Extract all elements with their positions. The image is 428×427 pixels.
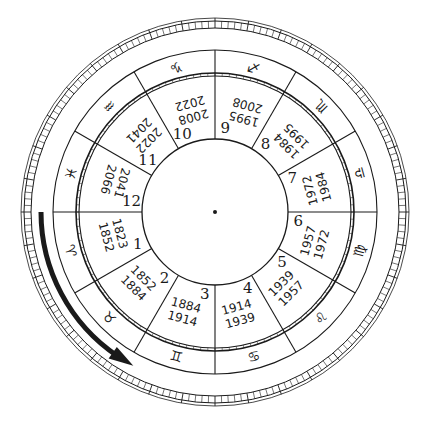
house-number: 4 — [243, 279, 253, 297]
cancer-sign-icon: ♋ — [246, 347, 262, 366]
house-period: 20082022 — [173, 93, 210, 128]
house-3: 318841914♊ — [166, 285, 210, 365]
house-1: 118231852♈ — [61, 217, 142, 259]
house-10: 1020082022♑ — [168, 58, 210, 142]
pisces-sign-icon: ♓ — [61, 165, 80, 181]
house-12: 1220412066♓ — [61, 163, 141, 210]
house-number: 7 — [288, 169, 298, 187]
house-period: 18521884 — [118, 262, 159, 303]
horoscope-wheel: 118231852♈218521884♉318841914♊419141939♋… — [0, 0, 428, 427]
house-period: 18231852 — [96, 217, 131, 254]
house-7: 719721984♎ — [288, 165, 369, 207]
house-6: 619571972♍ — [294, 212, 369, 261]
libra-sign-icon: ♎ — [350, 165, 369, 181]
capricorn-sign-icon: ♑ — [168, 58, 184, 77]
house-period: 19952008 — [227, 95, 264, 130]
house-4: 419141939♋ — [220, 279, 262, 365]
house-number: 6 — [294, 212, 304, 230]
house-period: 19721984 — [299, 170, 334, 207]
gemini-sign-icon: ♊ — [168, 347, 184, 366]
house-number: 1 — [133, 235, 143, 253]
center-dot — [213, 210, 217, 214]
house-number: 8 — [261, 135, 271, 153]
house-period: 19391957 — [265, 268, 306, 309]
virgo-sign-icon: ♍ — [350, 243, 369, 259]
house-number: 2 — [160, 269, 170, 287]
sagittarius-sign-icon: ♐ — [246, 58, 262, 77]
house-number: 3 — [200, 285, 210, 303]
aries-sign-icon: ♈ — [61, 243, 80, 260]
house-9: 919952008♐ — [220, 58, 264, 136]
house-period: 18841914 — [166, 294, 203, 329]
house-period: 19141939 — [220, 296, 257, 331]
house-period: 19841995 — [271, 120, 312, 161]
house-period: 20222041 — [123, 115, 164, 156]
house-number: 5 — [277, 253, 287, 271]
